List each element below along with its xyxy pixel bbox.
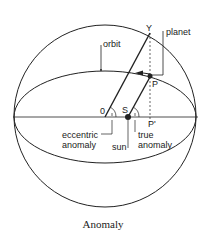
orbit-direction-arrow — [135, 71, 143, 76]
planet-label: planet — [166, 27, 191, 37]
diagram-caption: Anomaly — [83, 218, 124, 230]
eccentric-anomaly-label-1: eccentric — [62, 130, 99, 140]
true-anomaly-label-1: true — [138, 130, 154, 140]
p-point-label: P — [152, 79, 158, 89]
orbit-leader-dot — [100, 69, 102, 71]
orbit-label: orbit — [103, 39, 121, 49]
eccentric-anomaly-leader — [101, 120, 112, 134]
true-radius-line — [128, 77, 150, 117]
eccentric-anomaly-arc — [110, 107, 116, 117]
y-point-label: Y — [146, 23, 152, 33]
anomaly-diagram: Y planet orbit P 0 S P' eccentric anomal… — [0, 0, 205, 240]
planet-dot — [148, 74, 153, 79]
true-anomaly-arc — [133, 107, 139, 117]
sun-label: sun — [112, 142, 127, 152]
p-prime-label: P' — [148, 119, 156, 129]
o-point-label: 0 — [100, 106, 105, 116]
s-point-label: S — [122, 105, 128, 115]
eccentric-anomaly-label-2: anomaly — [62, 140, 97, 150]
planet-leader — [152, 31, 163, 75]
true-anomaly-label-2: anomaly — [138, 140, 173, 150]
